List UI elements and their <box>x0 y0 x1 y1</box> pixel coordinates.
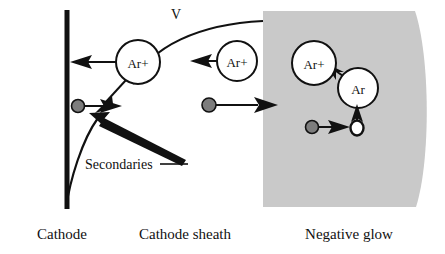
particle-label-ion-sheath-left: Ar+ <box>127 56 148 71</box>
region-label-cathode-sheath: Cathode sheath <box>139 226 232 242</box>
particle-label-ion-sheath-right: Ar+ <box>226 55 247 70</box>
diagram-canvas: Ar+ Secondaries V Ar+ Ar+ Ar <box>0 0 445 254</box>
particle-label-neutral-glow: Ar <box>351 82 365 97</box>
negative-glow-region <box>263 11 427 207</box>
region-label-negative-glow: Negative glow <box>305 226 393 242</box>
particle-electron-sheath <box>202 98 216 112</box>
particle-electron-cathode <box>72 100 85 113</box>
excited-state-loop-icon <box>351 121 364 136</box>
region-label-cathode: Cathode <box>37 226 87 242</box>
potential-label-v: V <box>171 7 181 22</box>
secondaries-label: Secondaries <box>85 157 153 172</box>
particle-label-ion-glow: Ar+ <box>303 57 324 72</box>
ion-secondary-emission-line <box>104 80 126 104</box>
plasma-sheath-diagram: Ar+ Secondaries V Ar+ Ar+ Ar <box>0 0 445 254</box>
particle-electron-glow <box>306 121 319 134</box>
